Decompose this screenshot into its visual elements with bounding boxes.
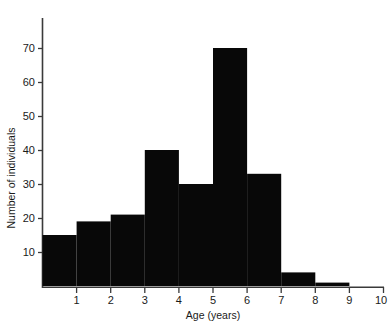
y-tick-label-40: 40: [23, 144, 35, 156]
bar-1-2: [77, 221, 111, 286]
x-tick-label-9: 9: [346, 294, 352, 306]
bar-8-9: [315, 283, 349, 286]
bar-7-8: [281, 272, 315, 286]
x-tick-label-1: 1: [74, 294, 80, 306]
y-tick-label-60: 60: [23, 76, 35, 88]
x-tick-label-5: 5: [210, 294, 216, 306]
x-axis-title: Age (years): [186, 309, 240, 321]
bar-6-7: [247, 174, 281, 286]
bar-5-6: [213, 48, 247, 286]
y-tick-label-10: 10: [23, 246, 35, 258]
x-tick-label-10: 10: [375, 294, 387, 306]
y-axis-title: Number of individuals: [5, 128, 17, 229]
bar-3-4: [145, 150, 179, 286]
histogram-figure: Number of individuals 70 60 50 40 30 20 …: [0, 0, 391, 323]
x-tick-label-4: 4: [176, 294, 182, 306]
x-axis-ticks: 1 2 3 4 5 6 7 8 9 10: [74, 287, 388, 306]
y-tick-label-70: 70: [23, 42, 35, 54]
y-axis-ticks: 70 60 50 40 30 20 10: [23, 42, 43, 258]
y-tick-label-50: 50: [23, 110, 35, 122]
x-tick-label-8: 8: [312, 294, 318, 306]
histogram-plot: Number of individuals 70 60 50 40 30 20 …: [0, 0, 391, 323]
x-tick-label-7: 7: [278, 294, 284, 306]
bar-4-5: [179, 184, 213, 286]
x-tick-label-3: 3: [142, 294, 148, 306]
bar-2-3: [111, 215, 145, 286]
x-tick-label-6: 6: [244, 294, 250, 306]
y-tick-label-20: 20: [23, 212, 35, 224]
y-tick-label-30: 30: [23, 178, 35, 190]
bar-0-1: [43, 235, 77, 286]
x-tick-label-2: 2: [108, 294, 114, 306]
histogram-bars: [43, 48, 350, 286]
